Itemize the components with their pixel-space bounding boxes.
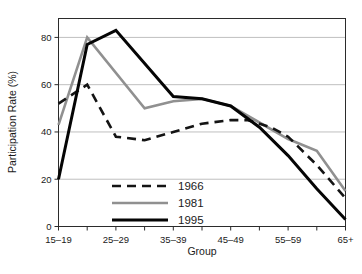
x-tick-label-10: 65+ (337, 234, 354, 245)
x-tick-label-2: 25–29 (103, 234, 129, 245)
x-tick-label-0: 15–19 (45, 234, 71, 245)
y-tick-label-0: 0 (46, 221, 51, 232)
y-axis-title: Participation Rate (%) (6, 71, 18, 173)
y-tick-label-60: 60 (41, 79, 52, 90)
y-tick-label-80: 80 (41, 32, 52, 43)
participation-rate-line-chart: 020406080 15–1925–2935–3945–4955–5965+ P… (0, 0, 362, 274)
legend-label-1966: 1966 (178, 180, 204, 192)
x-tick-label-6: 45–49 (217, 234, 243, 245)
y-tick-label-20: 20 (41, 174, 52, 185)
x-tick-label-8: 55–59 (275, 234, 301, 245)
x-tick-label-4: 35–39 (160, 234, 186, 245)
legend-label-1995: 1995 (178, 214, 204, 226)
y-tick-label-40: 40 (41, 126, 52, 137)
legend-label-1981: 1981 (178, 197, 204, 209)
x-axis-title: Group (187, 245, 216, 257)
chart-container: 020406080 15–1925–2935–3945–4955–5965+ P… (0, 0, 362, 274)
